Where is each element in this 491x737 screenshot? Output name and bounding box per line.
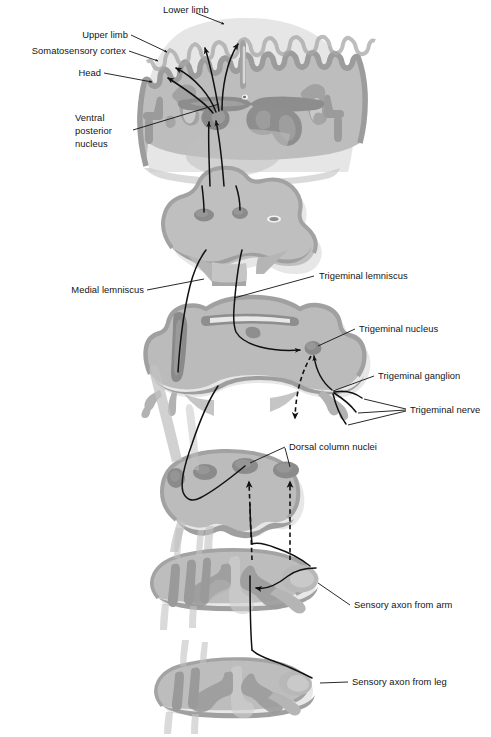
label-medial-lemniscus: Medial lemniscus (71, 284, 144, 295)
section-midbrain (163, 168, 322, 286)
label-sensory-axon-from-arm: Sensory axon from arm (354, 599, 453, 610)
label-ventral-posterior-nucleus-line2: posterior (75, 125, 112, 136)
label-dorsal-column-nuclei: Dorsal column nuclei (289, 441, 377, 452)
section-cord-lumbar (156, 640, 315, 734)
figure-canvas: Lower limb Upper limb Somatosensory cort… (0, 0, 491, 737)
section-forebrain (140, 18, 375, 186)
label-lower-limb: Lower limb (163, 4, 209, 15)
label-head: Head (78, 67, 101, 78)
somatosensory-pathway-diagram: Lower limb Upper limb Somatosensory cort… (0, 0, 491, 737)
label-trigeminal-nerve: Trigeminal nerve (410, 404, 480, 415)
label-somatosensory-cortex: Somatosensory cortex (32, 45, 126, 56)
label-sensory-axon-from-leg: Sensory axon from leg (352, 676, 447, 687)
section-pons (141, 297, 370, 420)
section-cord-cervical (152, 528, 319, 630)
label-ventral-posterior-nucleus-line1: Ventral (75, 112, 105, 123)
label-upper-limb: Upper limb (82, 29, 128, 40)
label-trigeminal-lemniscus: Trigeminal lemniscus (319, 270, 408, 281)
label-trigeminal-nucleus: Trigeminal nucleus (359, 323, 438, 334)
label-trigeminal-ganglion: Trigeminal ganglion (378, 370, 460, 381)
label-ventral-posterior-nucleus-line3: nucleus (75, 138, 108, 149)
